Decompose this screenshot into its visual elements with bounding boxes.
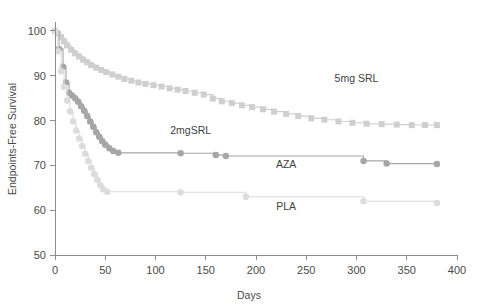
series-annotation-aza: AZA [276,158,296,170]
series-annotation-pla: PLA [276,200,296,212]
series-marker [177,150,184,157]
series-marker [67,108,74,115]
series-marker [308,115,314,121]
y-tick-label: 80 [34,115,46,127]
series-marker [73,127,80,134]
series-marker [422,122,428,128]
series-marker [271,109,277,115]
series-marker [128,78,134,84]
y-axis-title: Endpoints-Free Survival [6,83,18,195]
series-marker [239,102,245,108]
series-marker [177,189,184,196]
x-tick-label: 150 [197,264,215,276]
series-marker [394,122,400,128]
series-marker [76,135,83,142]
series-marker [249,104,255,110]
series-marker [434,161,441,168]
series-marker [183,88,189,94]
series-marker [121,76,127,82]
series-marker [58,68,65,75]
series-5mg-srl [52,28,440,128]
y-tick-label: 50 [34,249,46,261]
series-marker [434,200,441,207]
series-annotation-5mg-srl: 5mg SRL [335,72,379,84]
series-marker [150,82,156,88]
y-tick-label: 100 [28,25,46,37]
x-tick-label: 400 [448,264,466,276]
series-marker [85,158,92,165]
series-marker [349,120,355,126]
series-marker [360,158,367,165]
series-2mgsrl [52,28,440,168]
series-marker [88,164,95,171]
series-marker [115,150,122,157]
series-pla [52,28,440,207]
series-marker [103,69,109,75]
series-marker [283,111,289,117]
series-line [55,31,437,203]
y-tick-label: 90 [34,70,46,82]
x-tick-label: 250 [297,264,315,276]
series-marker [219,98,225,104]
series-marker [409,122,415,128]
plot-series-layer [52,28,440,207]
series-marker [70,118,77,125]
series-marker [213,152,220,159]
series-marker [360,198,367,205]
series-marker [61,84,68,91]
series-marker [79,143,86,150]
y-tick-label: 60 [34,204,46,216]
x-axis-title: Days [237,289,261,301]
series-marker [82,150,89,157]
x-tick-label: 50 [99,264,111,276]
series-marker [295,113,301,119]
x-tick-label: 350 [398,264,416,276]
x-tick-label: 100 [146,264,164,276]
series-marker [104,189,111,196]
series-marker [201,92,207,98]
axes-layer [50,22,457,260]
series-marker [364,121,370,127]
series-marker [379,121,385,127]
series-marker [260,106,266,112]
y-tick-label: 70 [34,159,46,171]
series-annotation-2mgsrl: 2mgSRL [170,124,211,136]
series-marker [223,153,230,160]
series-marker [321,117,327,123]
series-marker [135,79,141,85]
series-marker [109,71,115,77]
chart-container: 0501001502002503003504005060708090100 5m… [0,0,481,307]
series-marker [243,194,250,201]
x-tick-label: 0 [52,264,58,276]
kaplan-meier-plot: 0501001502002503003504005060708090100 5m… [0,0,481,307]
series-marker [167,85,173,91]
series-marker [192,90,198,96]
series-marker [159,84,165,90]
series-marker [175,87,181,93]
series-marker [335,118,341,124]
series-marker [142,81,148,87]
series-marker [210,96,216,102]
series-marker [91,171,98,178]
series-line [55,31,437,125]
series-marker [434,122,440,128]
series-line [55,31,437,164]
x-tick-label: 200 [247,264,265,276]
series-marker [55,48,62,55]
series-marker [115,74,121,80]
series-marker [383,160,390,167]
series-marker [64,97,71,104]
series-marker [229,100,235,106]
x-tick-label: 300 [347,264,365,276]
